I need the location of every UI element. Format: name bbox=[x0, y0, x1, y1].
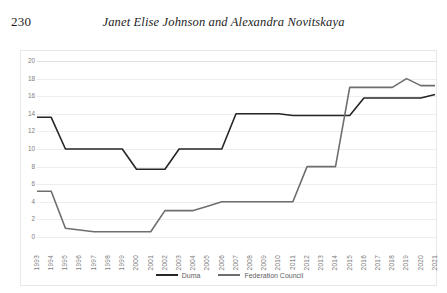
y-tick-label: 0 bbox=[31, 234, 35, 240]
legend-label-duma: Duma bbox=[182, 272, 201, 279]
y-tick-label: 12 bbox=[28, 128, 35, 134]
legend-swatch-federation-council bbox=[218, 274, 240, 276]
y-tick-label: 2 bbox=[31, 216, 35, 222]
y-tick-label: 8 bbox=[31, 163, 35, 169]
chart-legend: Duma Federation Council bbox=[21, 267, 438, 283]
series-line-duma bbox=[37, 94, 435, 169]
x-axis-tick-labels: 1993199419951996199719981999200020012002… bbox=[37, 240, 436, 270]
y-tick-label: 4 bbox=[31, 199, 35, 205]
y-tick-label: 10 bbox=[28, 146, 35, 152]
y-axis-tick-labels: 02468101214161820 bbox=[21, 61, 35, 237]
grid-line bbox=[37, 237, 436, 238]
page-header: 230 Janet Elise Johnson and Alexandra No… bbox=[0, 14, 447, 36]
series-lines bbox=[37, 61, 436, 237]
y-tick-label: 20 bbox=[28, 58, 35, 64]
chart-figure: 02468101214161820 1993199419951996199719… bbox=[20, 50, 437, 286]
running-title: Janet Elise Johnson and Alexandra Novits… bbox=[0, 15, 447, 30]
series-line-federation-council bbox=[37, 79, 435, 232]
y-tick-label: 14 bbox=[28, 111, 35, 117]
y-tick-label: 18 bbox=[28, 75, 35, 81]
legend-item-duma: Duma bbox=[156, 272, 201, 279]
legend-swatch-duma bbox=[156, 274, 178, 276]
y-tick-label: 6 bbox=[31, 181, 35, 187]
legend-item-federation-council: Federation Council bbox=[218, 272, 303, 279]
y-tick-label: 16 bbox=[28, 93, 35, 99]
legend-label-federation-council: Federation Council bbox=[244, 272, 303, 279]
plot-area bbox=[37, 61, 436, 237]
